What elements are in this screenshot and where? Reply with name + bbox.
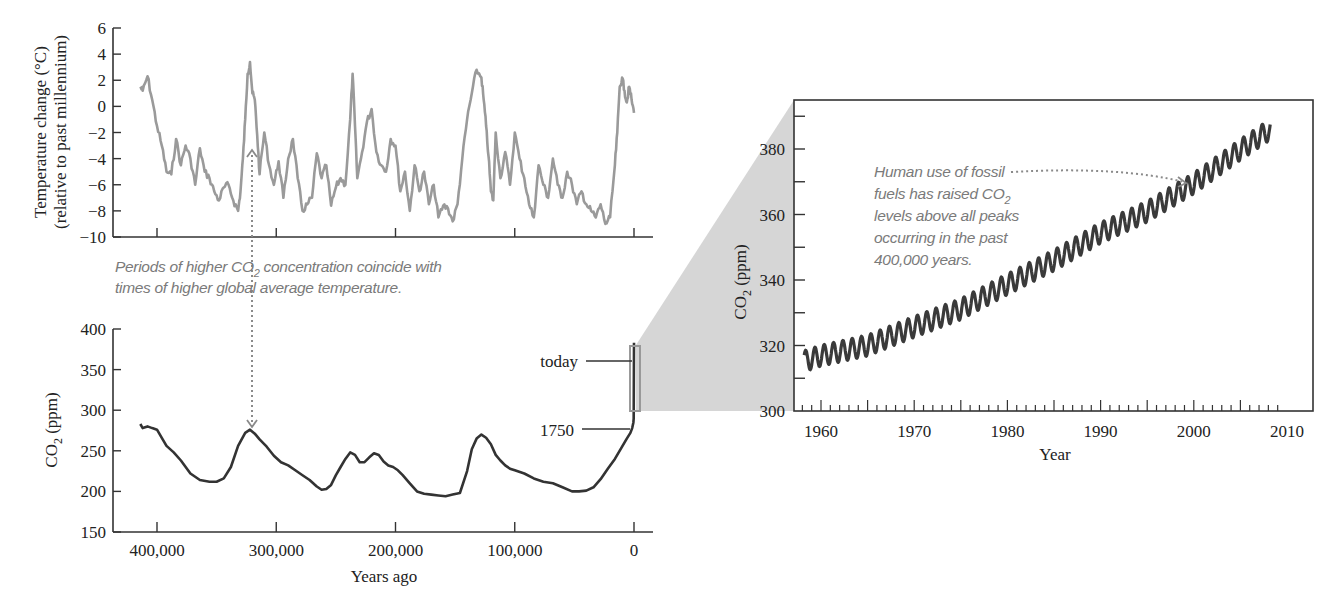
temperature-y-tick-label: 0	[98, 97, 107, 116]
co2-paleo-x-tick-label: 400,000	[129, 541, 184, 560]
co2-modern-x-tick-label: 1960	[804, 422, 838, 441]
y1750-label: 1750	[540, 421, 574, 440]
co2-modern-x-tick-label: 1980	[990, 422, 1024, 441]
co2-paleo-chart: 400350300250200150 400,000300,000200,000…	[42, 320, 653, 586]
temperature-y-tick-label: 6	[98, 19, 107, 38]
co2-modern-x-tick-label: 1990	[1084, 422, 1118, 441]
human-note-line4: occurring in the past	[874, 229, 1008, 246]
co2-paleo-y-tick-label: 400	[81, 320, 107, 339]
temperature-x-axis	[113, 228, 653, 237]
co2-modern-y-tick-label: 320	[760, 337, 786, 356]
co2-modern-chart: 300320340360380 196019701980199020002010…	[731, 100, 1313, 464]
temperature-y-tick-label: −4	[88, 150, 107, 169]
co2-paleo-x-tick-label: 200,000	[368, 541, 423, 560]
co2-paleo-y-axis: 400350300250200150	[81, 320, 122, 542]
co2-paleo-x-tick-label: 100,000	[487, 541, 542, 560]
co2-paleo-x-axis: 400,000300,000200,000100,0000	[113, 522, 653, 560]
co2-modern-x-tick-label: 2000	[1177, 422, 1211, 441]
svg-text:Periods of higher CO2 concentr: Periods of higher CO2 concentration coin…	[115, 258, 442, 279]
co2-modern-x-tick-label: 2010	[1270, 422, 1304, 441]
co2-paleo-y-axis-title: CO2 (ppm)	[42, 392, 65, 467]
temperature-y-tick-label: −8	[88, 202, 106, 221]
temperature-y-tick-label: −2	[88, 124, 106, 143]
temperature-y-tick-label: −6	[88, 176, 106, 195]
temperature-y-axis-title-line2: (relative to past millennium)	[51, 35, 70, 229]
years-ago-axis-title: Years ago	[351, 567, 418, 586]
co2-modern-y-tick-label: 360	[760, 206, 786, 225]
temperature-y-tick-label: −10	[79, 228, 106, 247]
year-axis-title: Year	[1039, 445, 1071, 464]
human-note-line1: Human use of fossil	[874, 163, 1005, 180]
co2-paleo-y-tick-label: 200	[81, 482, 107, 501]
temperature-y-tick-label: 2	[98, 71, 107, 90]
co2-paleo-x-tick-label: 0	[630, 541, 639, 560]
figure-co2-temperature: 6420−2−4−6−8−10 Temperature change (°C) …	[0, 0, 1340, 600]
periods-note-text-2: times of higher global average temperatu…	[115, 279, 402, 296]
human-note-line3: levels above all peaks	[874, 207, 1020, 224]
co2-paleo-y-tick-label: 250	[81, 442, 107, 461]
co2-paleo-y-tick-label: 350	[81, 361, 107, 380]
human-note-line5: 400,000 years.	[874, 251, 972, 268]
co2-modern-y-tick-label: 380	[760, 140, 786, 159]
co2-paleo-x-tick-label: 300,000	[249, 541, 304, 560]
periods-note-text-1b: concentration coincide with	[260, 258, 442, 275]
temperature-y-axis-title-line1: Temperature change (°C)	[31, 46, 50, 218]
today-label: today	[540, 352, 578, 371]
co2-modern-y-tick-label: 340	[760, 271, 786, 290]
temperature-chart: 6420−2−4−6−8−10 Temperature change (°C) …	[31, 19, 653, 247]
periods-annotation: Periods of higher CO2 concentration coin…	[115, 258, 442, 296]
co2-paleo-y-tick-label: 150	[81, 523, 107, 542]
temperature-series-line	[140, 62, 634, 224]
periods-note-text-1: Periods of higher CO	[115, 258, 254, 275]
temperature-y-axis: 6420−2−4−6−8−10	[79, 19, 121, 247]
co2-paleo-y-tick-label: 300	[81, 401, 107, 420]
co2-modern-y-tick-label: 300	[760, 402, 786, 421]
temperature-y-tick-label: 4	[98, 45, 107, 64]
co2-modern-x-tick-label: 1970	[897, 422, 931, 441]
